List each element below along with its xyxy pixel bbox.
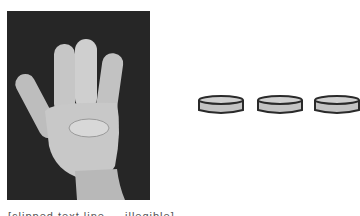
hand-photo bbox=[7, 11, 150, 200]
hand-four-fingers-icon bbox=[7, 11, 150, 200]
counter-token-icon bbox=[197, 94, 245, 116]
counter-token-icon bbox=[256, 94, 304, 116]
clipped-caption: [clipped text line — illegible] bbox=[8, 210, 175, 216]
counter-token-icon bbox=[313, 94, 360, 116]
